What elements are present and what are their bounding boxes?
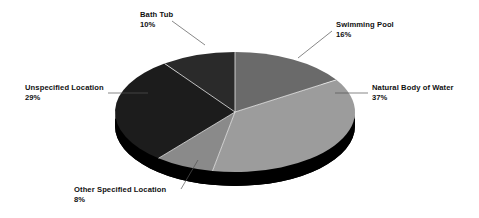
label-bath-tub: Bath Tub: [140, 10, 173, 19]
percent-unspecified-location: 29%: [25, 93, 40, 102]
label-swimming-pool: Swimming Pool: [336, 20, 394, 29]
leader-line-swimming-pool: [298, 31, 332, 58]
label-other-specified-location: Other Specified Location: [74, 185, 167, 194]
percent-natural-body-of-water: 37%: [372, 93, 387, 102]
label-natural-body-of-water: Natural Body of Water: [372, 83, 454, 92]
percent-bath-tub: 10%: [140, 20, 155, 29]
percent-other-specified-location: 8%: [74, 195, 85, 204]
percent-swimming-pool: 16%: [336, 30, 351, 39]
leader-line-bath-tub: [172, 21, 205, 45]
label-unspecified-location: Unspecified Location: [25, 83, 104, 92]
pie-chart-svg: Bath Tub 10% Swimming Pool 16% Natural B…: [0, 0, 479, 218]
pie-chart-figure: Bath Tub 10% Swimming Pool 16% Natural B…: [0, 0, 479, 218]
